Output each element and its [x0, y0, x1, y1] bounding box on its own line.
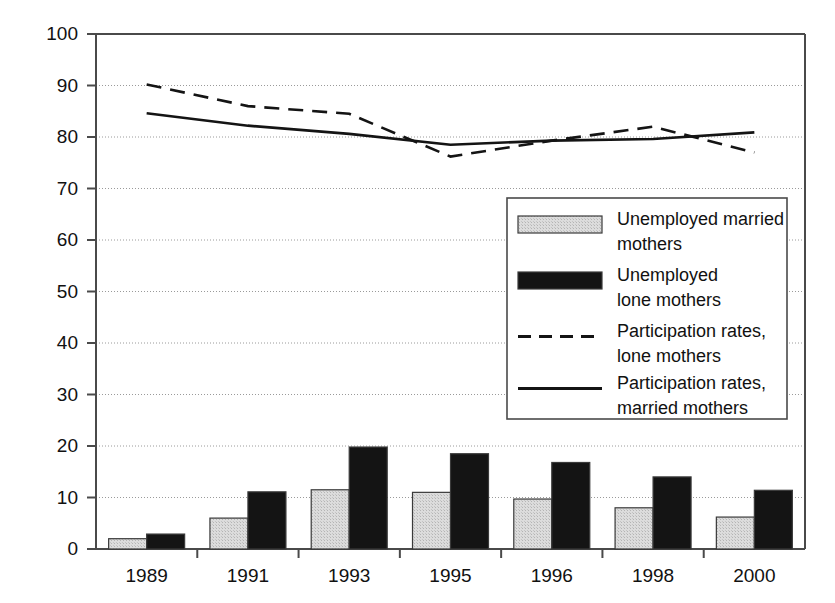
y-tick-label-50: 50: [57, 281, 78, 302]
y-tick-label-0: 0: [67, 538, 78, 559]
legend-label-3-line1: Participation rates,: [617, 373, 766, 393]
y-tick-label-90: 90: [57, 75, 78, 96]
bar-1989-series0: [109, 539, 147, 549]
y-tick-label-10: 10: [57, 487, 78, 508]
bar-1996-series1: [552, 462, 590, 549]
bar-1993-series0: [311, 490, 349, 549]
bar-1998-series0: [615, 508, 653, 549]
bar-1991-series1: [248, 492, 286, 549]
chart-container: 0102030405060708090100 19891991199319951…: [0, 0, 835, 603]
legend-label-1-line2: lone mothers: [617, 290, 721, 310]
bar-1993-series1: [349, 447, 387, 549]
x-tick-label-1998: 1998: [632, 565, 674, 586]
bar-2000-series1: [754, 490, 792, 549]
legend-label-3-line2: married mothers: [617, 398, 748, 418]
y-tick-label-30: 30: [57, 384, 78, 405]
bar-1991-series0: [210, 518, 248, 549]
legend-label-1-line1: Unemployed: [617, 265, 718, 285]
x-tick-label-1993: 1993: [328, 565, 370, 586]
legend-swatch-1: [518, 272, 602, 289]
legend-label-0-line2: mothers: [617, 234, 682, 254]
bar-1989-series1: [147, 534, 185, 549]
x-tick-label-1991: 1991: [227, 565, 269, 586]
legend-box: Unemployed marriedmothersUnemployedlone …: [507, 198, 787, 419]
chart-svg: 0102030405060708090100 19891991199319951…: [0, 0, 835, 603]
bar-2000-series0: [716, 517, 754, 549]
legend-label-2-line1: Participation rates,: [617, 321, 766, 341]
x-tick-label-1996: 1996: [531, 565, 573, 586]
x-tick-label-1995: 1995: [429, 565, 471, 586]
legend-label-2-line2: lone mothers: [617, 346, 721, 366]
y-tick-label-40: 40: [57, 332, 78, 353]
legend-swatch-0: [518, 216, 602, 233]
y-tick-label-80: 80: [57, 126, 78, 147]
bar-1995-series1: [451, 454, 489, 549]
bar-1995-series0: [413, 492, 451, 549]
y-tick-label-20: 20: [57, 435, 78, 456]
legend-label-0-line1: Unemployed married: [617, 209, 784, 229]
x-tick-label-2000: 2000: [733, 565, 775, 586]
y-tick-label-100: 100: [46, 23, 78, 44]
bar-1998-series1: [653, 477, 691, 549]
x-tick-label-1989: 1989: [126, 565, 168, 586]
bar-1996-series0: [514, 499, 552, 549]
y-tick-label-60: 60: [57, 229, 78, 250]
y-tick-label-70: 70: [57, 178, 78, 199]
